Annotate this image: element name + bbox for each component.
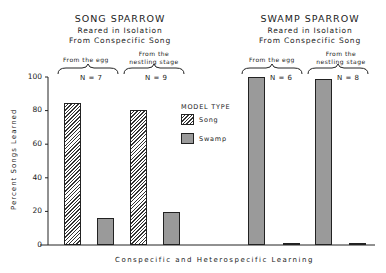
- bar-swamp-sparrow-nestling-song: [349, 243, 366, 245]
- legend-swatch-song: [181, 114, 194, 125]
- x-axis-label: Conspecific and Heterospecific Learning: [115, 256, 314, 264]
- y-tick: 80: [18, 105, 42, 114]
- n-label: N = 7: [80, 74, 103, 82]
- y-tick: 20: [18, 206, 42, 215]
- y-axis-label: Percent Songs Learned: [10, 109, 18, 210]
- bar-song-sparrow-egg-song: [64, 103, 81, 245]
- y-tick: 100: [18, 72, 42, 81]
- n-label: N = 8: [337, 74, 360, 82]
- legend-swatch-swamp: [181, 133, 194, 144]
- legend-label-song: Song: [199, 116, 219, 124]
- n-label: N = 9: [145, 74, 168, 82]
- legend-title: MODEL TYPE: [181, 103, 231, 111]
- bar-swamp-sparrow-egg-song: [283, 243, 300, 245]
- y-tick: 40: [18, 173, 42, 182]
- n-label: N = 6: [270, 74, 293, 82]
- y-tick: 60: [18, 139, 42, 148]
- bar-song-sparrow-nestling-song: [130, 110, 147, 245]
- bar-song-sparrow-nestling-swamp: [163, 212, 180, 245]
- bar-song-sparrow-egg-swamp: [97, 218, 114, 245]
- bar-swamp-sparrow-egg-swamp: [248, 77, 265, 245]
- y-tick: 0: [18, 240, 42, 249]
- bar-swamp-sparrow-nestling-swamp: [315, 79, 332, 245]
- legend-label-swamp: Swamp: [199, 135, 227, 143]
